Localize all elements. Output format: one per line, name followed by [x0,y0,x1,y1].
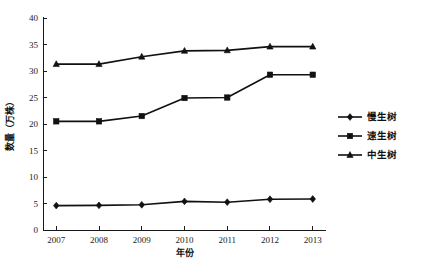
x-tick-label: 2012 [261,235,279,245]
x-tick-label: 2009 [133,235,152,245]
y-axis: 0510152025303540 [29,13,47,235]
legend-item[interactable]: 中生树 [338,149,397,160]
y-tick-label: 35 [29,40,39,50]
legend-label: 中生树 [367,149,397,160]
marker-square [310,72,315,77]
legend-label: 速生树 [367,130,397,141]
series-2 [54,72,316,124]
marker-square [139,113,144,118]
x-tick-label: 2010 [176,235,195,245]
marker-diamond [139,201,145,208]
legend-item[interactable]: 速生树 [338,130,397,141]
y-tick-label: 20 [29,119,39,129]
marker-diamond [53,202,59,209]
x-tick-label: 2011 [218,235,236,245]
y-tick-label: 30 [29,66,39,76]
legend-item[interactable]: 慢生树 [338,111,397,122]
y-tick-label: 5 [34,199,39,209]
x-axis: 2007200820092010201120122013 [43,226,326,245]
line-chart: 0510152025303540200720082009201020112012… [0,0,423,267]
y-tick-label: 10 [29,172,39,182]
legend-label: 慢生树 [367,111,397,122]
y-tick-label: 40 [29,13,39,23]
marker-square [96,119,101,124]
marker-diamond [347,114,353,121]
y-tick-label: 0 [34,225,39,235]
y-axis-title: 数量（万株） [4,97,15,151]
marker-square [225,95,230,100]
marker-square [347,133,352,138]
chart-container: 0510152025303540200720082009201020112012… [0,0,423,267]
marker-diamond [224,199,230,206]
marker-square [182,95,187,100]
x-tick-label: 2008 [90,235,109,245]
marker-diamond [96,202,102,209]
marker-diamond [310,196,316,203]
y-tick-label: 25 [29,93,39,103]
x-tick-label: 2007 [47,235,66,245]
series-3 [53,43,316,66]
x-tick-label: 2013 [304,235,323,245]
series-1 [53,196,315,209]
marker-diamond [267,196,273,203]
marker-square [267,72,272,77]
y-tick-label: 15 [29,146,39,156]
marker-diamond [182,198,188,205]
marker-square [54,119,59,124]
legend: 慢生树速生树中生树 [338,111,397,160]
x-axis-title: 年份 [176,247,195,258]
